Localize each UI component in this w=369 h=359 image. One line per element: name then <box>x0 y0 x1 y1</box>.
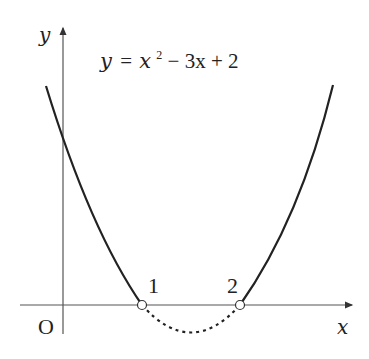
x-axis-label: x <box>337 315 348 339</box>
origin-label: O <box>38 314 54 339</box>
y-axis-label: y <box>38 23 51 47</box>
parabola-dotted-segment <box>142 305 240 333</box>
root-marker-2 <box>236 301 245 310</box>
equation-label: y = x 2 − 3x + 2 <box>99 40 239 73</box>
root-label-2: 2 <box>227 273 238 298</box>
root-marker-1 <box>138 301 147 310</box>
parabola-diagram: 1 2 O x y y = x 2 − 3x + 2 <box>0 0 369 359</box>
parabola-right-branch <box>240 85 333 305</box>
root-label-1: 1 <box>148 273 159 298</box>
parabola-left-branch <box>46 86 142 305</box>
